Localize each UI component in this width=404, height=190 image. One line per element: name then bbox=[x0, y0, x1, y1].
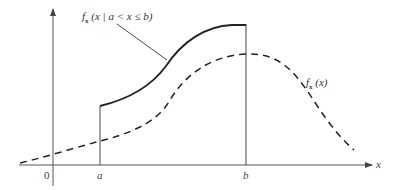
label-pointer-line bbox=[117, 24, 167, 60]
unconditional-density-label: fx (x) bbox=[306, 77, 328, 91]
tick-b-label: b bbox=[243, 170, 249, 181]
unconditional-density-curve bbox=[20, 54, 354, 163]
x-axis-label: x bbox=[376, 159, 381, 170]
diagram-canvas bbox=[0, 0, 404, 190]
label-sub: x bbox=[85, 17, 89, 25]
tick-a-label: a bbox=[97, 170, 103, 181]
conditional-density-curve bbox=[100, 25, 246, 106]
origin-label: 0 bbox=[44, 170, 50, 181]
label-arg: (x) bbox=[315, 76, 327, 88]
label-sub: x bbox=[309, 83, 313, 91]
label-arg: (x | a < x ≤ b) bbox=[91, 10, 152, 22]
conditional-density-label: fx (x | a < x ≤ b) bbox=[82, 11, 152, 25]
